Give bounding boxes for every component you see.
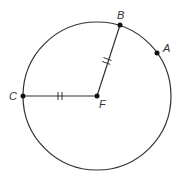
segment-fb [97, 25, 120, 96]
label-c: C [9, 90, 17, 102]
label-f: F [99, 98, 107, 110]
label-a: A [162, 42, 170, 54]
points [21, 23, 160, 99]
label-b: B [117, 9, 124, 21]
point-b [118, 23, 123, 28]
point-a [155, 51, 160, 56]
geometry-diagram: A B C F [0, 0, 179, 178]
tick-marks-fb [102, 58, 111, 65]
point-c [21, 94, 26, 99]
